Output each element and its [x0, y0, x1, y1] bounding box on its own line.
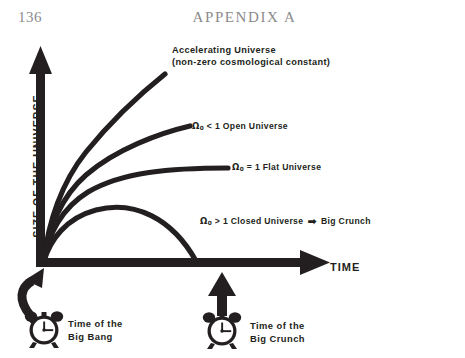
x-axis-shaft [36, 258, 306, 267]
omega-subscript-flat: 0 [240, 166, 244, 172]
label-flat-text: = 1 Flat Universe [244, 162, 321, 172]
omega-symbol-open: Ω0 [192, 121, 204, 131]
big-bang-clock-icon [25, 311, 63, 348]
label-flat-universe: Ω0 = 1 Flat Universe [232, 162, 321, 173]
label-accelerating-universe: Accelerating Universe (non-zero cosmolog… [172, 45, 330, 69]
omega-subscript-closed: 0 [208, 220, 212, 226]
big-crunch-clock-icon [203, 312, 241, 349]
caption-big-crunch-line2: Big Crunch [250, 333, 305, 346]
curve-open [44, 126, 190, 261]
label-big-crunch-endpoint: Big Crunch [321, 216, 371, 227]
page-canvas: 136 APPENDIX A [0, 0, 465, 358]
label-open-universe: Ω0 < 1 Open Universe [192, 121, 288, 132]
x-axis-arrowhead [300, 250, 330, 275]
caption-big-bang-line2: Big Bang [68, 331, 123, 344]
omega-subscript-open: 0 [200, 125, 204, 131]
label-accelerating-line2: (non-zero cosmological constant) [172, 57, 330, 69]
caption-big-bang: Time of the Big Bang [68, 318, 123, 344]
curve-closed [44, 207, 196, 261]
curves-group [44, 74, 228, 261]
curve-flat [44, 168, 228, 261]
right-arrow-icon: ➡ [307, 216, 317, 227]
label-closed-group: Ω0 > 1 Closed Universe [200, 216, 303, 227]
caption-big-bang-line1: Time of the [68, 318, 123, 331]
label-open-text: < 1 Open Universe [204, 121, 288, 131]
label-accelerating-line1: Accelerating Universe [172, 45, 330, 57]
label-closed-text: > 1 Closed Universe [212, 216, 303, 226]
omega-symbol-flat: Ω0 [232, 162, 244, 172]
y-axis-label: SIZE OF THE UNIVERSE [31, 91, 43, 241]
label-closed-universe: Ω0 > 1 Closed Universe ➡ Big Crunch [200, 216, 371, 227]
x-axis-label: TIME [330, 260, 360, 274]
caption-big-crunch: Time of the Big Crunch [250, 320, 305, 346]
omega-symbol-closed: Ω0 [200, 216, 212, 226]
big-crunch-pointer-arrow [208, 272, 236, 316]
y-axis-arrowhead [29, 46, 52, 74]
caption-big-crunch-line1: Time of the [250, 320, 305, 333]
